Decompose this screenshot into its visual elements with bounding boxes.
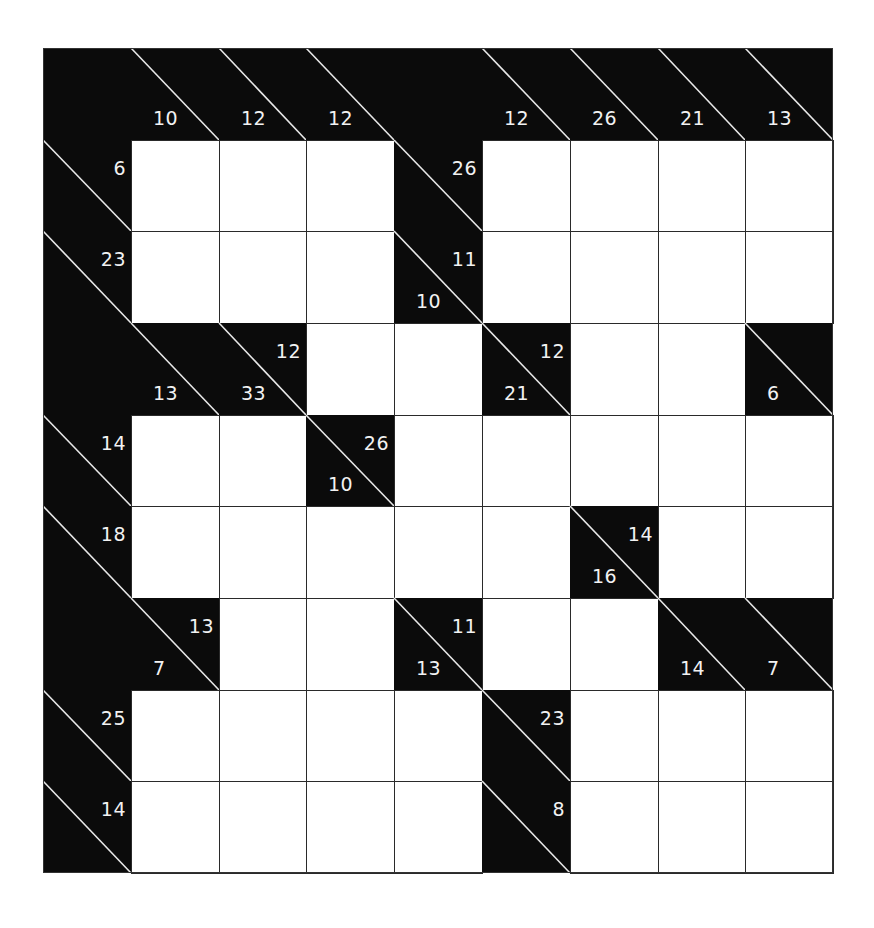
diagonal-divider-icon (43, 140, 131, 231)
down-clue: 7 (767, 659, 780, 678)
clue-cell-r5-c0: 18 (43, 506, 131, 598)
clue-cell-r0-c1: 10 (131, 48, 219, 140)
down-clue: 10 (328, 475, 353, 494)
entry-cell-r7-c2[interactable] (219, 690, 307, 782)
entry-cell-r5-c7[interactable] (658, 506, 746, 599)
entry-cell-r3-c7[interactable] (658, 323, 746, 416)
diagonal-divider-icon (43, 781, 131, 873)
across-clue: 6 (113, 159, 126, 178)
entry-cell-r6-c3[interactable] (306, 598, 395, 691)
entry-cell-r7-c3[interactable] (306, 690, 395, 782)
entry-cell-r8-c8[interactable] (745, 781, 834, 874)
entry-cell-r7-c8[interactable] (745, 690, 834, 782)
entry-cell-r6-c6[interactable] (570, 598, 659, 691)
entry-cell-r8-c7[interactable] (658, 781, 746, 874)
entry-cell-r2-c2[interactable] (219, 231, 307, 324)
clue-cell-r1-c0: 6 (43, 140, 131, 231)
down-clue: 12 (504, 109, 529, 128)
diagonal-divider-icon (43, 690, 131, 781)
entry-cell-r4-c8[interactable] (745, 415, 834, 507)
entry-cell-r4-c2[interactable] (219, 415, 307, 507)
down-clue: 14 (680, 659, 705, 678)
entry-cell-r7-c4[interactable] (394, 690, 483, 782)
down-clue: 10 (416, 292, 441, 311)
entry-cell-r1-c5[interactable] (482, 140, 571, 232)
across-clue: 26 (364, 434, 389, 453)
diagonal-divider-icon (131, 598, 219, 690)
entry-cell-r1-c6[interactable] (570, 140, 659, 232)
entry-cell-r4-c4[interactable] (394, 415, 483, 507)
across-clue: 23 (540, 709, 565, 728)
diagonal-divider-icon (745, 598, 833, 690)
entry-cell-r5-c4[interactable] (394, 506, 483, 599)
clue-cell-r3-c1: 13 (131, 323, 219, 415)
entry-cell-r3-c3[interactable] (306, 323, 395, 416)
entry-cell-r7-c6[interactable] (570, 690, 659, 782)
block-cell-r6-c0 (43, 598, 131, 690)
clue-cell-r3-c2: 1233 (219, 323, 306, 415)
entry-cell-r2-c7[interactable] (658, 231, 746, 324)
entry-cell-r2-c8[interactable] (745, 231, 834, 324)
entry-cell-r1-c3[interactable] (306, 140, 395, 232)
down-clue: 13 (153, 384, 178, 403)
kakuro-board: 1012121226211362623111013123312216142610… (43, 48, 833, 873)
clue-cell-r6-c8: 7 (745, 598, 833, 690)
entry-cell-r2-c3[interactable] (306, 231, 395, 324)
diagonal-divider-icon (482, 690, 570, 781)
down-clue: 12 (328, 109, 353, 128)
clue-cell-r7-c5: 23 (482, 690, 570, 781)
across-clue: 11 (452, 250, 477, 269)
clue-cell-r1-c4: 26 (394, 140, 482, 231)
entry-cell-r1-c8[interactable] (745, 140, 834, 232)
entry-cell-r4-c5[interactable] (482, 415, 571, 507)
clue-cell-r0-c3: 12 (306, 48, 394, 140)
entry-cell-r2-c1[interactable] (131, 231, 220, 324)
down-clue: 6 (767, 384, 780, 403)
entry-cell-r2-c5[interactable] (482, 231, 571, 324)
across-clue: 14 (101, 800, 126, 819)
across-clue: 23 (101, 250, 126, 269)
down-clue: 13 (416, 659, 441, 678)
across-clue: 13 (189, 617, 214, 636)
clue-cell-r2-c0: 23 (43, 231, 131, 323)
entry-cell-r1-c2[interactable] (219, 140, 307, 232)
entry-cell-r6-c5[interactable] (482, 598, 571, 691)
across-clue: 14 (101, 434, 126, 453)
entry-cell-r8-c4[interactable] (394, 781, 483, 874)
entry-cell-r1-c1[interactable] (131, 140, 220, 232)
entry-cell-r8-c6[interactable] (570, 781, 659, 874)
entry-cell-r7-c7[interactable] (658, 690, 746, 782)
clue-cell-r0-c6: 26 (570, 48, 658, 140)
entry-cell-r2-c6[interactable] (570, 231, 659, 324)
entry-cell-r5-c2[interactable] (219, 506, 307, 599)
entry-cell-r4-c6[interactable] (570, 415, 659, 507)
entry-cell-r4-c7[interactable] (658, 415, 746, 507)
entry-cell-r5-c3[interactable] (306, 506, 395, 599)
across-clue: 25 (101, 709, 126, 728)
entry-cell-r6-c2[interactable] (219, 598, 307, 691)
entry-cell-r1-c7[interactable] (658, 140, 746, 232)
entry-cell-r3-c4[interactable] (394, 323, 483, 416)
entry-cell-r8-c2[interactable] (219, 781, 307, 874)
entry-cell-r8-c1[interactable] (131, 781, 220, 874)
block-cell-r0-c4 (394, 48, 482, 140)
clue-cell-r3-c8: 6 (745, 323, 833, 415)
clue-cell-r8-c0: 14 (43, 781, 131, 873)
entry-cell-r8-c3[interactable] (306, 781, 395, 874)
entry-cell-r4-c1[interactable] (131, 415, 220, 507)
entry-cell-r5-c1[interactable] (131, 506, 220, 599)
entry-cell-r5-c8[interactable] (745, 506, 834, 599)
down-clue: 10 (153, 109, 178, 128)
entry-cell-r5-c5[interactable] (482, 506, 571, 599)
clue-cell-r6-c7: 14 (658, 598, 745, 690)
clue-cell-r2-c4: 1110 (394, 231, 482, 323)
across-clue: 26 (452, 159, 477, 178)
clue-cell-r4-c3: 2610 (306, 415, 394, 506)
clue-cell-r8-c5: 8 (482, 781, 570, 873)
down-clue: 7 (153, 659, 166, 678)
diagonal-divider-icon (482, 781, 570, 873)
entry-cell-r7-c1[interactable] (131, 690, 220, 782)
clue-cell-r6-c1: 137 (131, 598, 219, 690)
down-clue: 33 (241, 384, 266, 403)
entry-cell-r3-c6[interactable] (570, 323, 659, 416)
